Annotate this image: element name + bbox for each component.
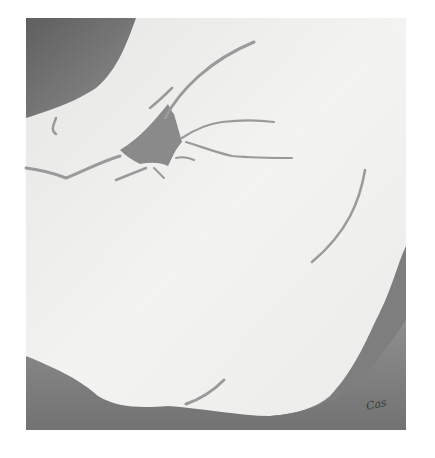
painting (0, 0, 435, 458)
